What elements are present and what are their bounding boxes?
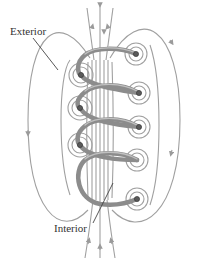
interior-label: Interior <box>54 222 87 234</box>
field-lines <box>28 5 180 258</box>
field-lines-graphic <box>0 0 199 264</box>
solenoid-field-diagram: Exterior Interior <box>0 0 199 264</box>
exterior-label: Exterior <box>10 25 46 37</box>
